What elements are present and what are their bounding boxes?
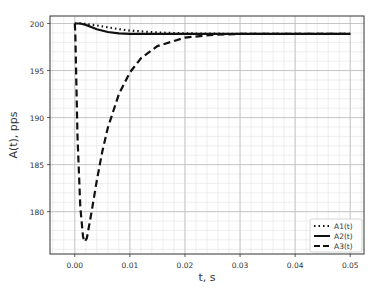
x-tick-label: 0.05	[342, 261, 359, 270]
y-tick-label: 190	[30, 114, 45, 123]
x-tick-label: 0.01	[122, 261, 139, 270]
x-tick-label: 0.03	[232, 261, 249, 270]
x-axis-ticks: 0.000.010.020.030.040.05	[66, 254, 358, 270]
y-tick-label: 195	[30, 67, 45, 76]
series-a3t	[75, 24, 350, 242]
x-axis-label: t, s	[198, 271, 215, 284]
y-tick-label: 185	[30, 161, 45, 170]
y-axis-ticks: 180185190195200	[30, 20, 50, 217]
x-tick-label: 0.00	[66, 261, 83, 270]
legend-label: A1(t)	[334, 222, 353, 231]
y-axis-label: A(t), pps	[7, 111, 20, 158]
x-tick-label: 0.02	[177, 261, 194, 270]
y-tick-label: 200	[30, 20, 45, 29]
line-chart: 0.000.010.020.030.040.05 180185190195200…	[0, 0, 382, 293]
y-tick-label: 180	[30, 208, 45, 217]
x-tick-label: 0.04	[287, 261, 304, 270]
series-lines	[75, 24, 350, 242]
legend-label: A3(t)	[334, 242, 353, 251]
legend: A1(t)A2(t)A3(t)	[310, 219, 362, 252]
legend-label: A2(t)	[334, 232, 353, 241]
minor-grid	[50, 16, 364, 254]
